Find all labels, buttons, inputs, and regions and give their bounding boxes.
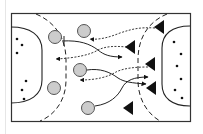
run-line-a1 <box>62 41 122 57</box>
attacker-a2 <box>78 25 91 38</box>
left-free-throw-line <box>36 14 66 121</box>
defender-d3 <box>145 57 155 71</box>
attacker-a3 <box>74 64 87 77</box>
defender-d2 <box>125 40 135 54</box>
pass-line-1 <box>90 28 155 39</box>
defender-d4 <box>146 81 156 95</box>
left-goal-markers <box>16 38 28 101</box>
left-goal-area <box>11 27 42 103</box>
right-goal-markers <box>173 41 184 100</box>
attacker-a4 <box>48 82 61 95</box>
defender-d1 <box>154 20 164 34</box>
attacker-a5 <box>82 102 95 115</box>
handball-drill-diagram <box>0 0 203 134</box>
defender-d5 <box>123 101 133 115</box>
run-line-a5 <box>95 77 148 106</box>
attacker-a1 <box>49 31 62 44</box>
